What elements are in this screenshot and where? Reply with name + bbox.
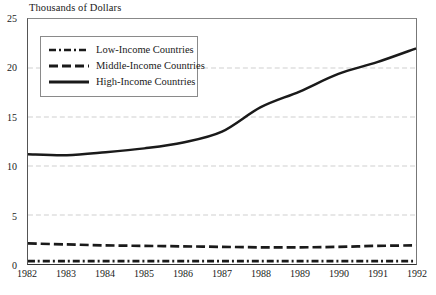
chart-axis-title: Thousands of Dollars: [29, 2, 121, 13]
legend-item-high-income: High-Income Countries: [49, 74, 190, 90]
x-tick-label: 1989: [280, 268, 320, 279]
x-tick-label: 1986: [163, 268, 203, 279]
x-tick-label: 1985: [124, 268, 164, 279]
x-tick-label: 1992: [397, 268, 436, 279]
legend-label-high-income: High-Income Countries: [96, 77, 195, 88]
chart-legend: Low-Income Countries Middle-Income Count…: [40, 36, 198, 97]
legend-label-low-income: Low-Income Countries: [96, 45, 194, 56]
x-tick-label: 1983: [46, 268, 86, 279]
y-tick-label: 5: [0, 210, 17, 221]
legend-item-low-income: Low-Income Countries: [49, 42, 190, 58]
x-tick-label: 1982: [7, 268, 47, 279]
legend-label-middle-income: Middle-Income Countries: [96, 61, 205, 72]
x-tick-label: 1990: [319, 268, 359, 279]
dashed-line-icon: [49, 61, 89, 71]
x-tick-label: 1984: [85, 268, 125, 279]
x-tick-label: 1988: [241, 268, 281, 279]
legend-item-middle-income: Middle-Income Countries: [49, 58, 190, 74]
y-tick-label: 10: [0, 161, 17, 172]
y-tick-label: 25: [0, 13, 17, 24]
y-tick-label: 15: [0, 111, 17, 122]
series-line: [28, 243, 416, 247]
dash-dot-line-icon: [49, 45, 89, 55]
solid-line-icon: [49, 77, 89, 87]
x-tick-label: 1991: [358, 268, 398, 279]
y-tick-label: 20: [0, 62, 17, 73]
x-tick-label: 1987: [202, 268, 242, 279]
line-chart: Thousands of Dollars 0510152025 19821983…: [0, 0, 436, 295]
